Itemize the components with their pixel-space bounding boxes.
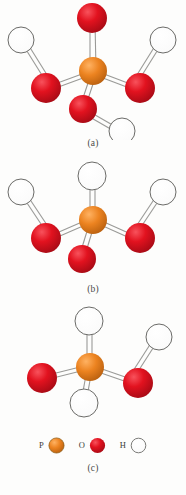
atom-h-top	[75, 307, 103, 335]
legend-entry-p: P	[39, 437, 65, 454]
molecule-diagram-a	[0, 0, 186, 140]
atom-o-right	[123, 368, 153, 398]
molecule-diagram-b	[0, 160, 186, 288]
structure-panel-a: (a)	[0, 0, 186, 155]
caption-a: (a)	[0, 138, 186, 148]
atom-o-bottom	[69, 95, 97, 123]
atom-o-top	[77, 3, 107, 33]
atom-o-left	[27, 363, 57, 393]
caption-b: (b)	[0, 284, 186, 294]
atom-o-bottom	[68, 245, 96, 273]
atom-h-right	[150, 179, 176, 205]
legend-swatch-h-icon	[130, 437, 147, 454]
bond-o-h-right-2	[133, 343, 151, 371]
atom-h-top	[78, 162, 106, 190]
atom-h-bottom	[70, 389, 98, 417]
legend-entry-o: O	[79, 437, 106, 454]
atom-h-bottom	[109, 118, 135, 140]
atom-h-left	[8, 27, 34, 53]
atom-h-right	[146, 324, 172, 350]
atom-h-right	[150, 27, 176, 53]
molecule-diagram-c	[0, 305, 186, 435]
atom-o-left	[31, 223, 61, 253]
legend: P O H	[0, 430, 186, 460]
atom-o-left	[31, 73, 61, 103]
legend-label-o: O	[79, 440, 85, 450]
legend-label-h: H	[120, 440, 126, 450]
atom-p-center	[79, 206, 107, 234]
atom-o-right	[125, 223, 155, 253]
legend-swatch-p-icon	[48, 437, 65, 454]
atom-p-center	[79, 57, 107, 85]
legend-entry-h: H	[120, 437, 147, 454]
atom-h-left	[8, 179, 34, 205]
atom-o-right	[125, 73, 155, 103]
legend-swatch-o-icon	[89, 437, 106, 454]
structure-panel-c: P O H (c)	[0, 305, 186, 495]
atom-p-center	[76, 353, 104, 381]
structure-panel-b: (b)	[0, 160, 186, 305]
caption-c: (c)	[0, 463, 186, 473]
legend-label-p: P	[39, 440, 44, 450]
